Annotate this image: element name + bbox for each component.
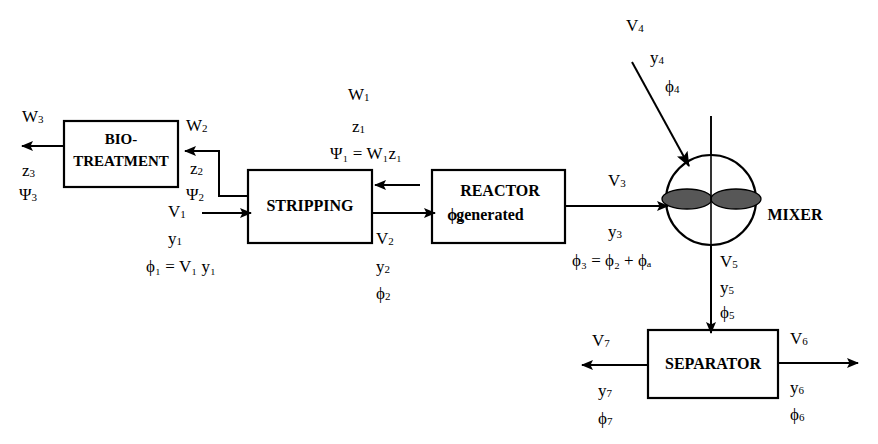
stream-v4-flow-label: V4 xyxy=(626,16,644,35)
stream-v7-flow-label: V7 xyxy=(592,331,610,350)
stream-v1-comp-label: y1 xyxy=(168,229,182,248)
stream-v3-load-equation: ϕ₃ = ϕ₂ + ϕₐ xyxy=(572,251,652,270)
unit-separator[interactable]: SEPARATOR xyxy=(648,330,778,398)
bio-treatment-label-line2: TREATMENT xyxy=(73,153,169,169)
stream-v2-flow-label: V2 xyxy=(376,229,394,248)
stream-v5-comp-label: y5 xyxy=(720,278,735,297)
stream-w3-flow-label: W3 xyxy=(22,107,44,126)
stream-v7-comp-label: y7 xyxy=(598,381,613,400)
separator-label: SEPARATOR xyxy=(665,355,761,372)
stream-v6-load-label: ϕ6 xyxy=(790,405,805,424)
mixer-label: MIXER xyxy=(767,206,823,223)
stream-v5-flow-label: V5 xyxy=(720,252,738,271)
stream-v2: V2 y2 ϕ2 xyxy=(372,213,435,303)
bio-treatment-label-line1: BIO- xyxy=(105,131,138,147)
unit-reactor[interactable]: REACTOR ϕa generated xyxy=(432,170,565,243)
stream-w2-flow-label: W2 xyxy=(186,116,208,135)
unit-stripping[interactable]: STRIPPING xyxy=(248,170,372,243)
stream-v7-load-label: ϕ7 xyxy=(598,409,613,428)
stream-v3-flow-label: V3 xyxy=(608,171,626,190)
reactor-generated-label: generated xyxy=(456,206,524,224)
stream-v4-arrow xyxy=(632,62,689,166)
stream-w2-recycle: W2 z2 Ψ2 xyxy=(185,116,248,204)
stream-v4-comp-label: y4 xyxy=(650,48,665,67)
stream-v7: V7 y7 ϕ7 xyxy=(582,331,648,428)
unit-bio-treatment[interactable]: BIO- TREATMENT xyxy=(64,121,178,187)
stream-v6-comp-label: y6 xyxy=(790,378,805,397)
mixer-impeller-blade-left xyxy=(662,189,712,209)
stream-w3-comp-label: z3 xyxy=(22,161,36,180)
stream-v4-mixer-inlet: V4 y4 ϕ4 xyxy=(626,16,689,166)
stream-v2-comp-label: y2 xyxy=(376,257,390,276)
stream-w3: W3 z3 Ψ3 xyxy=(19,107,64,204)
stream-v6-flow-label: V6 xyxy=(790,329,808,348)
mixer-impeller-blade-right xyxy=(711,189,761,209)
stream-v3-comp-label: y3 xyxy=(608,222,623,241)
process-flow-diagram: BIO- TREATMENT STRIPPING REACTOR ϕa gene… xyxy=(0,0,878,444)
stream-v5-load-label: ϕ5 xyxy=(720,303,735,322)
stream-v3: V3 y3 ϕ₃ = ϕ₂ + ϕₐ xyxy=(565,171,668,270)
reactor-label: REACTOR xyxy=(460,182,540,199)
unit-mixer[interactable]: MIXER xyxy=(662,116,823,245)
stream-w1-comp-label: z1 xyxy=(352,117,365,136)
stream-v1-flow-label: V1 xyxy=(168,202,186,221)
stream-w2-load-label: Ψ2 xyxy=(186,185,204,204)
stream-v1-feed: V1 y1 ϕ₁ = V₁ y₁ xyxy=(146,202,251,276)
stream-w1-flow-label: W1 xyxy=(348,85,370,104)
stream-v6: V6 y6 ϕ6 xyxy=(778,329,858,424)
stripping-label: STRIPPING xyxy=(266,197,354,214)
stream-w2-comp-label: z2 xyxy=(190,159,203,178)
stream-v1-load-equation: ϕ₁ = V₁ y₁ xyxy=(146,257,216,276)
stream-v4-load-label: ϕ4 xyxy=(665,77,680,96)
stream-w1-load-equation: Ψ₁ = W₁z₁ xyxy=(330,144,402,163)
diagram-canvas: BIO- TREATMENT STRIPPING REACTOR ϕa gene… xyxy=(0,0,878,444)
stream-v2-load-label: ϕ2 xyxy=(376,284,390,303)
stream-w3-load-label: Ψ3 xyxy=(19,185,38,204)
stream-v5: V5 y5 ϕ5 xyxy=(711,245,738,333)
